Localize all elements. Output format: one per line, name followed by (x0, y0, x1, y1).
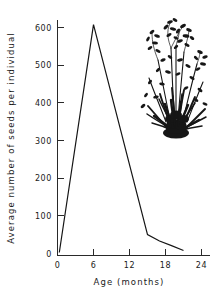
x-tick-label: 12 (124, 261, 135, 270)
y-axis-ticks (58, 28, 65, 216)
x-axis-title: Age (months) (94, 277, 165, 287)
x-tick-label: 24 (196, 261, 207, 270)
x-axis-tick-labels: 0 6 12 18 24 (55, 261, 208, 270)
chart-figure: 600 500 400 300 200 100 0 0 6 12 18 24 A… (0, 0, 223, 296)
y-tick-label: 400 (35, 99, 52, 108)
y-axis-tick-labels: 600 500 400 300 200 100 0 (35, 24, 52, 259)
chart-svg: 600 500 400 300 200 100 0 0 6 12 18 24 A… (0, 0, 223, 296)
x-tick-label: 0 (55, 261, 61, 270)
y-tick-label: 100 (35, 212, 52, 221)
grass-plant-illustration (140, 17, 208, 138)
y-tick-label: 0 (46, 250, 52, 259)
y-tick-label: 300 (35, 137, 52, 146)
y-tick-label: 600 (35, 24, 52, 33)
x-tick-label: 6 (91, 261, 97, 270)
x-tick-label: 18 (160, 261, 171, 270)
y-axis-title: Average number of seeds per individual (6, 32, 16, 244)
y-tick-label: 500 (35, 61, 52, 70)
x-axis-ticks (58, 249, 202, 256)
y-tick-label: 200 (35, 174, 52, 183)
